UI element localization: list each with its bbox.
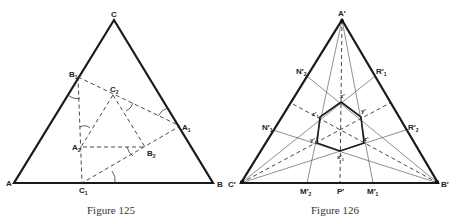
- label-c-prime: C′: [228, 180, 236, 189]
- caption-figure-125: Figure 125: [87, 204, 135, 216]
- triangle-a2b2c2: [81, 95, 145, 147]
- caption-figure-126: Figure 126: [311, 204, 359, 216]
- label-a2: A2: [72, 143, 81, 153]
- label-n2-prime: N′2: [296, 67, 307, 77]
- label-c2: C2: [110, 85, 119, 95]
- angle-mark: [68, 95, 80, 99]
- triangle-a1b1c1: [78, 77, 180, 183]
- cevian-c-r2: [241, 130, 406, 183]
- label-m1-prime: M′1: [367, 187, 379, 197]
- cevian-b-n2: [308, 77, 438, 183]
- angle-mark: [126, 103, 133, 111]
- cevian-c-r1: [241, 77, 374, 183]
- label-b-prime: B′: [441, 180, 449, 189]
- label-b2: B2: [147, 149, 156, 159]
- label-c1: C1: [79, 186, 88, 196]
- label-a: A: [6, 179, 12, 188]
- vertex-a: [340, 19, 344, 23]
- label-a1: A1: [182, 123, 191, 133]
- angle-mark: [112, 171, 115, 183]
- vertex-c: [240, 180, 244, 184]
- label-r2-prime: R′2: [408, 123, 419, 133]
- label-m2-prime: M′2: [300, 187, 312, 197]
- label-x-prime: x′: [340, 93, 345, 99]
- label-y-prime: y′: [361, 108, 366, 114]
- label-b1: B1: [69, 70, 78, 80]
- label-r1-prime: R′1: [376, 67, 387, 77]
- vertex-b: [435, 180, 439, 184]
- figure-125: C A B B1 C1 A1 C2 A2 B2 Figure 125: [6, 10, 223, 216]
- label-a-prime: A′: [338, 9, 346, 18]
- label-z1-prime: z′1: [312, 111, 319, 119]
- figures-canvas: C A B B1 C1 A1 C2 A2 B2 Figure 125 A′ C′…: [0, 0, 454, 220]
- label-p-prime: P′: [337, 187, 344, 196]
- triangle-abc: [14, 20, 213, 183]
- label-b: B: [217, 180, 223, 189]
- label-n1-prime: N′1: [262, 123, 273, 133]
- label-c: C: [111, 10, 117, 19]
- label-z-prime: z′: [364, 136, 369, 142]
- label-x1-prime: x′1: [337, 154, 345, 162]
- angle-mark: [80, 126, 90, 128]
- angle-mark: [158, 108, 168, 116]
- figure-126: A′ C′ B′ P′ M′2 M′1 N′2 N′1 R′1 R′2 x′ y…: [228, 9, 449, 216]
